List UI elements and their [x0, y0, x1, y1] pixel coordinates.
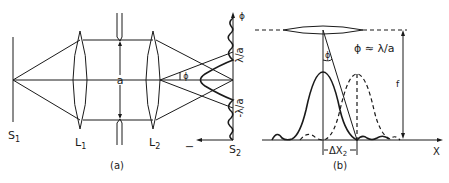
phi-axis-label: ϕ: [239, 11, 245, 21]
aperture-bottom: [117, 119, 120, 145]
lens2-label: L2: [149, 136, 160, 151]
focal-label: f: [396, 79, 400, 89]
diffraction-diagram: a ϕ ϕ I λ/a -λ/a S1 L1 L2 S2 (a): [0, 0, 449, 183]
angled-ray: [323, 30, 357, 140]
x-axis-label: X: [433, 146, 440, 157]
ray: [13, 40, 80, 80]
relation-label: ϕ ≈ λ/a: [354, 42, 394, 55]
caption-a: (a): [110, 160, 124, 171]
intensity-label: I: [185, 145, 195, 148]
source-label: S1: [8, 129, 20, 144]
aperture-top: [117, 13, 120, 41]
angle-label: ϕ: [183, 72, 188, 81]
tick-neg-lambda-over-a: -λ/a: [234, 98, 245, 117]
airy-curve-primary: [272, 72, 389, 140]
delta-x-label: ΔX2: [329, 145, 347, 158]
caption-b: (b): [333, 160, 347, 171]
lens1-label: L1: [75, 136, 86, 151]
airy-curve-secondary: [300, 74, 400, 140]
tick-lambda-over-a: λ/a: [234, 47, 245, 62]
airy-pattern: [201, 18, 234, 140]
ray: [156, 80, 233, 120]
angle-label-b: ϕ: [325, 51, 330, 60]
aperture-label: a: [117, 74, 124, 87]
diffracted-ray: [160, 52, 233, 80]
screen-label: S2: [229, 143, 241, 158]
ray: [13, 80, 80, 120]
ray: [156, 40, 233, 80]
panel-a: a ϕ ϕ I λ/a -λ/a S1 L1 L2 S2 (a): [8, 11, 245, 171]
panel-b: f ϕ ≈ λ/a ϕ X ΔX2 (b): [255, 26, 443, 171]
